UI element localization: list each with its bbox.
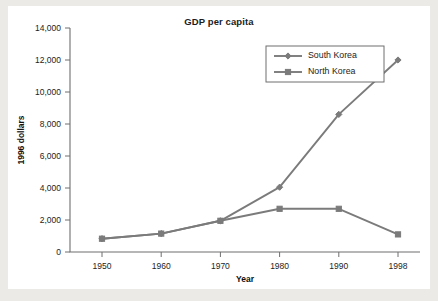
x-tick-label: 1950	[93, 261, 112, 271]
y-axis-title: 1996 dollars	[16, 115, 26, 164]
x-axis-title: Year	[236, 274, 255, 284]
data-point-north-korea-1998	[395, 232, 400, 237]
x-tick-label: 1990	[329, 261, 348, 271]
y-tick-label: 2,000	[40, 215, 62, 225]
x-tick-label: 1998	[389, 261, 408, 271]
data-point-north-korea-1990	[336, 206, 341, 211]
y-tick-label: 14,000	[35, 23, 61, 33]
legend-label-north-korea: North Korea	[308, 66, 356, 76]
gdp-per-capita-line-chart: 02,0004,0006,0008,00010,00012,00014,000 …	[8, 6, 430, 289]
data-point-north-korea-1950	[99, 236, 104, 241]
legend-marker	[285, 69, 290, 74]
y-tick-label: 12,000	[35, 55, 61, 65]
x-tick-label: 1960	[152, 261, 171, 271]
data-point-north-korea-1980	[277, 206, 282, 211]
chart-legend: South KoreaNorth Korea	[266, 46, 384, 82]
legend-label-south-korea: South Korea	[308, 50, 357, 60]
series-line-north-korea	[102, 209, 398, 239]
y-tick-label: 0	[56, 247, 61, 257]
y-tick-label: 10,000	[35, 87, 61, 97]
x-tick-label: 1980	[270, 261, 289, 271]
screenshot-root: GDP per capita 02,0004,0006,0008,00010,0…	[0, 0, 438, 301]
chart-card: GDP per capita 02,0004,0006,0008,00010,0…	[8, 6, 430, 289]
series-layer	[99, 57, 401, 242]
y-tick-label: 4,000	[40, 183, 62, 193]
y-axis-ticks: 02,0004,0006,0008,00010,00012,00014,000	[35, 23, 70, 257]
series-line-south-korea	[102, 60, 398, 239]
y-tick-label: 6,000	[40, 151, 62, 161]
x-axis-ticks: 195019601970198019901998	[93, 252, 408, 271]
y-tick-label: 8,000	[40, 119, 62, 129]
x-tick-label: 1970	[211, 261, 230, 271]
data-point-north-korea-1960	[159, 231, 164, 236]
data-point-north-korea-1970	[218, 218, 223, 223]
